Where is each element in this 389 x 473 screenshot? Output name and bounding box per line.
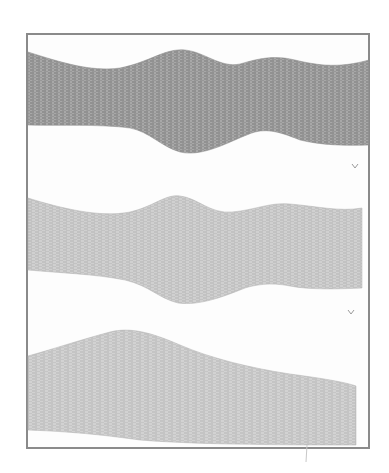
tissue-strip-bottom bbox=[28, 330, 356, 445]
tissue-illustration bbox=[0, 0, 389, 473]
tissue-strip-top bbox=[28, 50, 369, 153]
small-v-mark bbox=[348, 310, 354, 314]
scan-artifact bbox=[306, 445, 307, 462]
tissue-strip-middle bbox=[28, 196, 362, 304]
small-v-mark bbox=[352, 164, 358, 168]
